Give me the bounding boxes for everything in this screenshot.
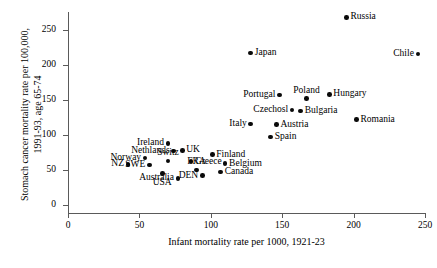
data-point[interactable] [344,15,349,20]
x-axis-line [68,213,425,214]
x-tick-mark [282,213,283,218]
data-point-label: Poland [293,85,319,95]
data-point-label: Canada [225,167,254,177]
data-point-label: Japan [255,48,277,58]
data-point[interactable] [248,122,253,127]
x-tick-mark [68,213,69,218]
data-point[interactable] [416,52,421,57]
x-axis-title: Infant mortality rate per 1000, 1921-23 [68,236,425,247]
data-point-label: Austria [280,120,308,130]
data-point[interactable] [304,96,309,101]
data-point[interactable] [274,122,279,127]
y-axis-title: Stomach cancer mortality rate per 100,00… [19,0,44,230]
x-tick-label: 100 [196,221,226,231]
data-point-label: USA [153,178,172,188]
data-point-label: Czechosl [253,105,288,115]
data-point[interactable] [160,171,165,176]
data-point[interactable] [147,163,152,168]
y-tick-mark [63,30,68,31]
x-tick-label: 200 [339,221,369,231]
data-point-label: DEN [179,171,199,181]
data-point-label: Switz [157,147,179,157]
data-point[interactable] [176,176,181,181]
y-tick-mark [63,205,68,206]
data-point[interactable] [290,108,295,113]
x-tick-label: 250 [410,221,437,231]
data-point[interactable] [248,51,253,56]
data-point-label: Romania [360,115,394,125]
data-point-label: Portugal [243,90,275,100]
data-point[interactable] [327,92,332,97]
y-tick-mark [63,65,68,66]
data-point-label: Chile [393,49,414,59]
data-point-label: SWE [125,160,145,170]
data-point[interactable] [166,159,171,164]
y-axis-title-line2: 1991-93, age 65-74 [31,0,44,230]
data-point[interactable] [268,135,273,140]
y-tick-mark [63,135,68,136]
x-tick-mark [211,213,212,218]
data-point[interactable] [354,117,359,122]
x-tick-label: 50 [124,221,154,231]
data-point-label: FRA [187,157,205,167]
data-point[interactable] [223,161,228,166]
y-axis-title-line1: Stomach cancer mortality rate per 100,00… [19,28,30,201]
data-point-label: Russia [350,13,375,23]
data-point[interactable] [277,93,282,98]
y-tick-mark [63,100,68,101]
data-point[interactable] [200,173,205,178]
data-point-label: Hungary [333,90,366,100]
y-tick-mark [63,170,68,171]
data-point-label: UK [186,146,200,156]
data-point[interactable] [298,109,303,114]
data-point-label: Spain [275,132,297,142]
x-tick-label: 0 [53,221,83,231]
x-tick-label: 150 [267,221,297,231]
data-point-label: Bulgaria [305,106,338,116]
data-point-label: NZ [111,160,124,170]
x-tick-mark [354,213,355,218]
x-tick-mark [139,213,140,218]
data-point[interactable] [218,170,223,175]
x-tick-mark [425,213,426,218]
data-point[interactable] [180,148,185,153]
y-axis-line [68,12,69,214]
data-point-label: Italy [229,119,246,129]
